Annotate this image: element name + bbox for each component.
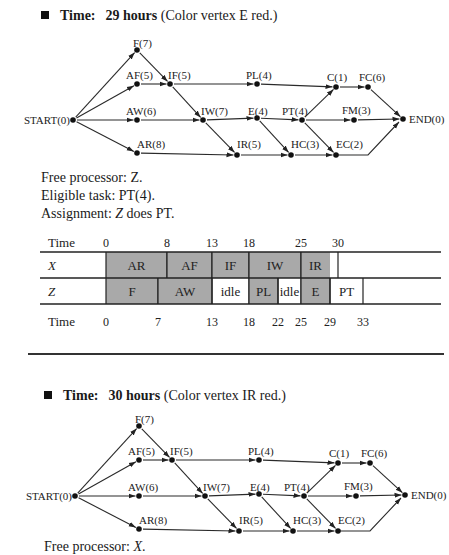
edge-iw-ir: [208, 499, 237, 529]
vertex-dot-icon: [169, 457, 175, 463]
edge-e-hc: [262, 497, 291, 528]
node-label: PL(4): [248, 445, 274, 458]
vertex-dot-icon: [335, 460, 341, 466]
node-label: AW(6): [128, 481, 159, 494]
edge-pt-c: [307, 465, 336, 493]
vertex-dot-icon: [290, 528, 296, 534]
free-processor-suffix: .: [142, 539, 146, 554]
node-label: HC(3): [293, 514, 321, 527]
node-start[interactable]: START(0): [26, 490, 78, 503]
node-label: EC(2): [338, 514, 365, 527]
node-label: FM(3): [344, 480, 373, 493]
node-label: END(0): [411, 489, 447, 502]
task-graph-30h: START(0)F(7)AF(5)IF(5)AW(6)IW(7)AR(8)IR(…: [0, 0, 449, 555]
edge-ar-ir: [143, 529, 236, 531]
vertex-dot-icon: [301, 493, 307, 499]
node-label: C(1): [329, 447, 350, 460]
node-label: E(4): [250, 481, 270, 494]
vertex-dot-icon: [136, 493, 142, 499]
vertex-dot-icon: [72, 493, 78, 499]
node-label: FC(6): [361, 447, 388, 460]
edge-iw-e: [209, 494, 256, 496]
vertex-dot-icon: [136, 526, 142, 532]
node-f[interactable]: F(7): [135, 413, 154, 429]
node-label: IW(7): [203, 481, 230, 494]
node-label: AR(8): [139, 514, 167, 527]
vertex-dot-icon: [256, 457, 262, 463]
edge-pl-c: [263, 460, 335, 463]
vertex-dot-icon: [335, 528, 341, 534]
free-processor-prefix: Free processor:: [44, 539, 133, 554]
node-label: START(0): [26, 490, 72, 503]
vertex-dot-icon: [353, 493, 359, 499]
node-label: IF(5): [170, 445, 193, 458]
edge-fm-end: [360, 495, 402, 496]
free-processor-line-2: Free processor: X.: [44, 538, 145, 555]
vertex-dot-icon: [402, 492, 408, 498]
node-label: PT(4): [284, 481, 310, 494]
vertex-dot-icon: [236, 528, 242, 534]
edge-e-pt: [263, 494, 301, 496]
edge-if-iw: [175, 463, 203, 493]
vertex-dot-icon: [136, 457, 142, 463]
edge-fc-end: [373, 466, 402, 493]
node-label: IR(5): [239, 514, 263, 527]
node-label: F(7): [135, 413, 154, 426]
node-label: AF(5): [128, 445, 155, 458]
free-processor-value: X: [133, 539, 142, 554]
vertex-dot-icon: [367, 460, 373, 466]
edge-start-ar: [79, 498, 136, 528]
vertex-dot-icon: [202, 493, 208, 499]
node-end[interactable]: END(0): [402, 489, 447, 502]
